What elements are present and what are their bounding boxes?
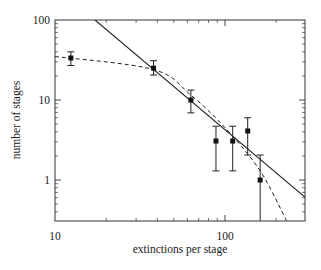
y-axis-label: number of stages [10, 80, 23, 159]
major-ticks [55, 20, 305, 221]
solid-fit-line [95, 20, 305, 197]
log-log-chart: 10100100101 extinctions per stage number… [0, 0, 321, 270]
minor-ticks [55, 20, 305, 221]
data-point [244, 118, 251, 155]
dashed-fit-line [55, 56, 286, 220]
y-tick-label: 10 [39, 94, 51, 106]
tick-labels: 10100100101 [33, 14, 234, 242]
x-tick-label: 100 [216, 230, 234, 242]
data-point [229, 126, 236, 171]
data-point [150, 61, 157, 75]
data-points [67, 52, 263, 221]
fit-lines [55, 20, 305, 221]
data-point [67, 52, 74, 66]
y-tick-label: 1 [44, 174, 50, 186]
x-axis-label: extinctions per stage [133, 243, 228, 256]
data-point [212, 126, 219, 171]
data-point [257, 155, 264, 221]
x-tick-label: 10 [49, 230, 61, 242]
plot-frame [55, 20, 305, 221]
y-tick-label: 100 [33, 14, 51, 26]
